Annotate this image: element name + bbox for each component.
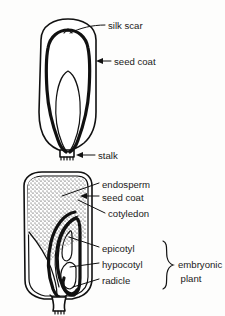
lower-seed-stalk — [52, 297, 66, 311]
seed-structure-figure: silk scar seed coat stalk — [0, 0, 225, 316]
label-hypocotyl: hypocotyl — [102, 259, 143, 270]
label-seed-coat-lower: seed coat — [102, 192, 144, 203]
label-endosperm: endosperm — [102, 179, 150, 190]
label-seed-coat-upper: seed coat — [114, 56, 156, 67]
label-embryonic-plant-line1: embryonic — [178, 259, 222, 270]
label-cotyledon: cotyledon — [108, 208, 149, 219]
label-radicle: radicle — [102, 275, 130, 286]
label-silk-scar: silk scar — [108, 20, 143, 31]
label-stalk: stalk — [98, 150, 118, 161]
label-embryonic-plant-line2: plant — [181, 273, 202, 284]
label-epicotyl: epicotyl — [102, 243, 135, 254]
